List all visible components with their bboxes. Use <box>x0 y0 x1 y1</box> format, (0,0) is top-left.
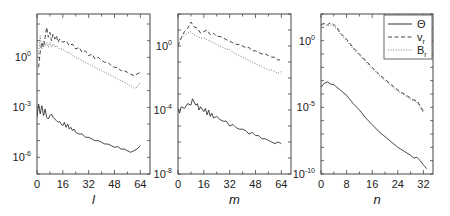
y-tick-exponent: -5 <box>309 100 315 107</box>
y-tick-exponent: -10 <box>305 167 315 174</box>
y-tick-exponent: 0 <box>168 39 172 46</box>
series-line-v-r <box>178 22 281 60</box>
series-line-v-r <box>39 27 141 75</box>
x-tick-label: 32 <box>417 178 429 190</box>
x-tick-label: 16 <box>57 178 69 190</box>
x-tick-label: 32 <box>83 178 95 190</box>
y-tick-label: 100 <box>299 34 315 47</box>
series-line-theta <box>321 82 427 169</box>
x-tick-label: 32 <box>224 178 236 190</box>
x-tick-label: 48 <box>108 178 120 190</box>
y-tick-label: 100 <box>156 39 172 52</box>
y-tick-base: 10 <box>293 168 305 180</box>
y-tick-exponent: -3 <box>25 100 31 107</box>
legend-label: Θ <box>417 18 426 30</box>
x-tick-label: 0 <box>34 178 40 190</box>
y-tick-base: 10 <box>15 51 27 63</box>
x-tick-label: 16 <box>198 178 210 190</box>
y-tick-label: 10-4 <box>154 103 173 116</box>
y-tick-base: 10 <box>13 151 25 163</box>
y-tick-exponent: -4 <box>166 103 172 110</box>
x-axis-label: m <box>229 192 240 207</box>
chart-figure: 01632486410010-310-6l01632486410010-410-… <box>0 0 450 216</box>
y-tick-base: 10 <box>156 40 168 52</box>
y-tick-exponent: -8 <box>166 167 172 174</box>
y-tick-label: 10-3 <box>13 100 32 113</box>
series-line-theta <box>178 99 281 144</box>
legend-label-main: B <box>417 44 424 56</box>
plot-frame <box>178 14 291 174</box>
y-tick-label: 100 <box>15 50 31 63</box>
y-tick-exponent: -6 <box>25 150 31 157</box>
series-line-theta <box>37 104 140 152</box>
x-tick-label: 0 <box>175 178 181 190</box>
x-tick-label: 48 <box>249 178 261 190</box>
panel-n: 0816243210010-510-10nΘvrBr <box>293 14 433 207</box>
y-tick-base: 10 <box>154 104 166 116</box>
y-tick-base: 10 <box>297 101 309 113</box>
x-tick-label: 24 <box>392 178 404 190</box>
y-tick-label: 10-6 <box>13 150 32 163</box>
x-axis-label: l <box>92 192 96 207</box>
legend-label-main: Θ <box>417 18 426 30</box>
x-tick-label: 64 <box>275 178 287 190</box>
y-tick-exponent: 0 <box>311 34 315 41</box>
panel-m: 01632486410010-410-8m <box>154 14 291 207</box>
series-line-b-r <box>39 36 141 88</box>
x-tick-label: 8 <box>344 178 350 190</box>
y-tick-base: 10 <box>299 35 311 47</box>
x-tick-label: 16 <box>366 178 378 190</box>
legend: ΘvrBr <box>384 15 432 59</box>
x-tick-label: 64 <box>134 178 146 190</box>
panel-l: 01632486410010-310-6l <box>13 14 150 207</box>
y-tick-label: 10-10 <box>293 167 315 180</box>
y-tick-label: 10-5 <box>297 100 316 113</box>
x-tick-label: 0 <box>318 178 324 190</box>
y-tick-base: 10 <box>13 101 25 113</box>
y-tick-exponent: 0 <box>27 50 31 57</box>
y-tick-base: 10 <box>154 168 166 180</box>
x-axis-label: n <box>373 192 380 207</box>
series-line-b-r <box>178 32 281 74</box>
y-tick-label: 10-8 <box>154 167 173 180</box>
